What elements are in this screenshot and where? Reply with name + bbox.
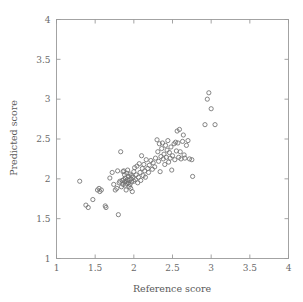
x-tick-label: 2 <box>131 263 137 273</box>
data-point <box>170 168 174 172</box>
data-point <box>160 146 164 150</box>
data-point <box>180 139 184 143</box>
y-tick-label: 2.5 <box>36 134 51 144</box>
data-point <box>112 182 116 186</box>
data-point <box>116 213 120 217</box>
data-point <box>203 123 207 127</box>
data-point <box>139 154 143 158</box>
y-tick-label: 3 <box>45 94 51 104</box>
data-point <box>156 150 160 154</box>
y-axis-tick-labels: 11.522.533.54 <box>36 15 51 264</box>
data-point <box>115 169 119 173</box>
data-point <box>158 170 162 174</box>
data-point <box>139 178 143 182</box>
data-point <box>213 123 217 127</box>
y-tick-label: 4 <box>45 15 51 25</box>
plot-canvas: 11.522.533.54 11.522.533.54 Reference sc… <box>0 0 303 302</box>
data-point <box>207 91 211 95</box>
data-point <box>155 138 159 142</box>
data-point <box>163 162 167 166</box>
data-point <box>110 170 114 174</box>
data-point <box>91 197 95 201</box>
y-axis-ticks <box>57 20 289 259</box>
data-point <box>181 133 185 137</box>
data-point <box>205 97 209 101</box>
data-point <box>186 138 190 142</box>
data-point <box>142 162 146 166</box>
data-points-layer <box>78 91 218 217</box>
x-tick-label: 1 <box>54 263 60 273</box>
data-point <box>163 143 167 147</box>
data-point <box>184 143 188 147</box>
data-point <box>173 158 177 162</box>
data-point <box>156 159 160 163</box>
x-tick-label: 3.5 <box>243 263 258 273</box>
y-tick-label: 1.5 <box>36 214 51 224</box>
data-point <box>166 138 170 142</box>
axis-frame <box>57 20 289 259</box>
y-tick-label: 3.5 <box>36 55 51 65</box>
scatter-plot-figure: 11.522.533.54 11.522.533.54 Reference sc… <box>0 0 303 302</box>
x-tick-label: 2.5 <box>165 263 180 273</box>
data-point <box>78 179 82 183</box>
x-axis-title: Reference score <box>133 283 212 294</box>
y-tick-label: 2 <box>45 174 51 184</box>
x-tick-label: 3 <box>208 263 214 273</box>
x-axis-ticks <box>57 20 289 259</box>
data-point <box>144 158 148 162</box>
data-point <box>108 176 112 180</box>
data-point <box>191 174 195 178</box>
y-tick-label: 1 <box>45 254 51 264</box>
x-tick-label: 1.5 <box>88 263 103 273</box>
x-tick-label: 4 <box>286 263 292 273</box>
y-axis-title: Predicted score <box>8 100 19 176</box>
data-point <box>146 170 150 174</box>
x-axis-tick-labels: 11.522.533.54 <box>54 263 292 273</box>
data-point <box>209 107 213 111</box>
data-point <box>119 150 123 154</box>
